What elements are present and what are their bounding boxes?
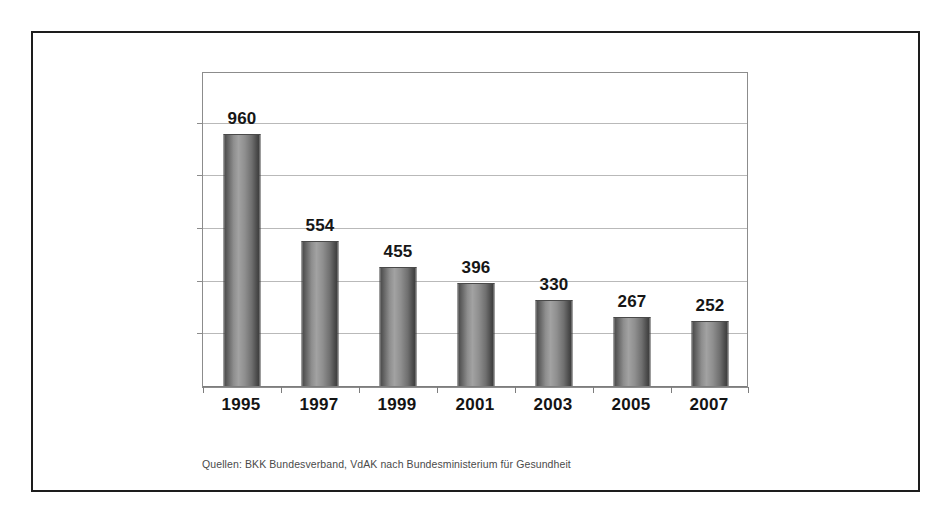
x-tick: [748, 387, 749, 393]
x-axis-baseline: [203, 386, 747, 387]
category-label: 2001: [436, 395, 514, 415]
x-tick: [203, 387, 204, 393]
bar-value-label: 330: [540, 275, 569, 295]
x-tick: [593, 387, 594, 393]
bar-value-label: 267: [618, 292, 647, 312]
bar-slot: 330: [515, 73, 593, 387]
x-tick: [437, 387, 438, 393]
chart-container: 960554455396330267252 199519971999200120…: [33, 33, 922, 494]
bar-value-label: 960: [228, 109, 257, 129]
category-label: 1999: [358, 395, 436, 415]
bar-value-label: 554: [306, 216, 335, 236]
bar-value-label: 396: [462, 258, 491, 278]
bar-value-label: 455: [384, 242, 413, 262]
bar-slot: 455: [359, 73, 437, 387]
bar[interactable]: [458, 283, 495, 387]
category-label: 2007: [670, 395, 748, 415]
figure-outer-frame: 960554455396330267252 199519971999200120…: [31, 31, 920, 492]
bar-slot: 267: [593, 73, 671, 387]
x-tick: [671, 387, 672, 393]
category-label: 2005: [592, 395, 670, 415]
bar[interactable]: [302, 241, 339, 387]
bar[interactable]: [224, 134, 261, 387]
bar[interactable]: [614, 317, 651, 387]
bar-slot: 554: [281, 73, 359, 387]
plot-area: 960554455396330267252: [202, 72, 748, 388]
source-caption: Quellen: BKK Bundesverband, VdAK nach Bu…: [202, 458, 842, 470]
bars-layer: 960554455396330267252: [203, 73, 747, 387]
x-tick: [515, 387, 516, 393]
bar-slot: 396: [437, 73, 515, 387]
category-label: 2003: [514, 395, 592, 415]
bar-slot: 960: [203, 73, 281, 387]
bar[interactable]: [692, 321, 729, 387]
bar[interactable]: [536, 300, 573, 387]
bar-value-label: 252: [696, 296, 725, 316]
x-tick: [281, 387, 282, 393]
bar-slot: 252: [671, 73, 749, 387]
bar[interactable]: [380, 267, 417, 387]
category-label: 1995: [202, 395, 280, 415]
category-axis-labels: 1995199719992001200320052007: [202, 395, 748, 425]
x-tick: [359, 387, 360, 393]
category-label: 1997: [280, 395, 358, 415]
